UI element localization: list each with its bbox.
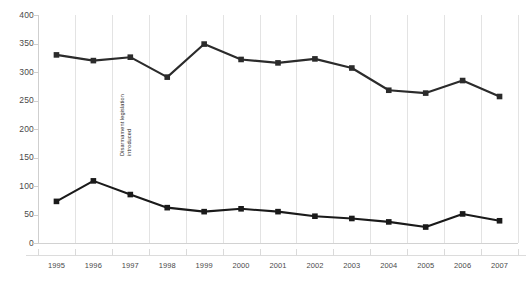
data-point-marker [423, 90, 429, 96]
data-point-marker [128, 54, 134, 60]
data-point-marker [164, 205, 170, 211]
data-point-marker [349, 216, 355, 222]
data-point-marker [164, 74, 170, 80]
data-point-marker [423, 224, 429, 230]
data-point-marker [128, 192, 134, 198]
data-point-marker [91, 178, 97, 184]
data-point-marker [460, 78, 466, 84]
data-point-marker [54, 199, 60, 205]
data-point-marker [91, 58, 97, 64]
series-upper-series [54, 41, 503, 99]
series-layer [0, 0, 528, 287]
data-point-marker [312, 213, 318, 219]
series-line [56, 181, 499, 227]
series-line [56, 44, 499, 96]
data-point-marker [386, 219, 392, 225]
data-point-marker [349, 65, 355, 71]
data-point-marker [201, 41, 207, 47]
data-point-marker [386, 87, 392, 93]
data-point-marker [275, 60, 281, 66]
data-point-marker [497, 94, 503, 100]
data-point-marker [238, 206, 244, 212]
data-point-marker [275, 209, 281, 215]
line-chart: 050100150200250300350400 199519961997199… [0, 0, 528, 287]
data-point-marker [497, 218, 503, 224]
data-point-marker [238, 57, 244, 63]
data-point-marker [54, 52, 60, 58]
data-point-marker [312, 56, 318, 62]
series-lower-series [54, 178, 503, 230]
disarmament-annotation-line2: introduced [126, 129, 134, 156]
data-point-marker [201, 209, 207, 215]
data-point-marker [460, 211, 466, 217]
